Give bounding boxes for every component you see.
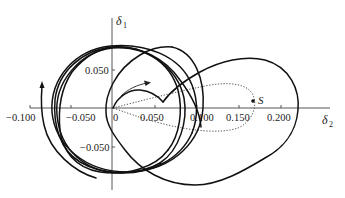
point-s-label: S	[258, 94, 264, 106]
y-tick-labels: 0.050 −0.050	[80, 65, 110, 153]
upward-arrowhead-icon	[40, 81, 45, 88]
x-tick-label: 0	[113, 112, 118, 123]
x-tick-label: 0.050	[140, 112, 164, 123]
y-axis-title: δ 1	[116, 14, 127, 30]
phase-portrait-chart: −0.100 −0.050 0 0.050 0.100 0.150 0.200 …	[0, 0, 345, 198]
svg-text:δ: δ	[116, 14, 122, 28]
x-tick-label: 0.200	[267, 112, 291, 123]
arrowhead-icon	[144, 81, 151, 87]
y-tick-label: −0.050	[80, 142, 110, 153]
x-tick-label: −0.100	[6, 112, 36, 123]
point-s-marker	[251, 99, 255, 103]
svg-text:δ: δ	[322, 113, 328, 127]
x-axis-title: δ 2	[322, 113, 333, 129]
svg-text:1: 1	[123, 21, 127, 30]
x-tick-label: −0.050	[66, 112, 96, 123]
y-tick-label: 0.050	[85, 65, 109, 76]
x-tick-label: 0.150	[226, 112, 250, 123]
svg-text:2: 2	[329, 120, 333, 129]
chart-canvas: −0.100 −0.050 0 0.050 0.100 0.150 0.200 …	[0, 0, 345, 198]
